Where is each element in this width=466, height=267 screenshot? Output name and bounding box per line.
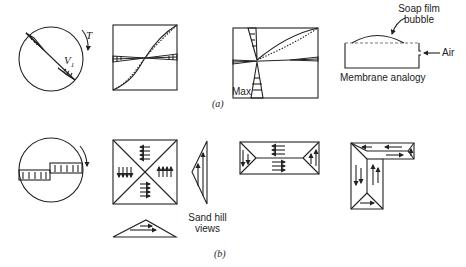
sand-hill-bottom-triangle [113, 220, 176, 237]
torque-label: T [86, 30, 92, 41]
caption-b: (b) [214, 248, 226, 259]
soap-film-label: Soap filmbubble [389, 3, 449, 25]
membrane-analogy-diagram [345, 18, 440, 68]
membrane-analogy-label: Membrane analogy [340, 72, 426, 83]
caption-a: (a) [212, 98, 224, 109]
circular-section-b [19, 138, 87, 202]
square-section-a [113, 25, 177, 90]
sand-hill-label: Sand hillviews [185, 212, 230, 234]
square-sand-hill [113, 140, 177, 204]
air-label: Air [442, 47, 454, 58]
figure-canvas [0, 0, 466, 267]
sand-hill-side-triangle [192, 141, 207, 204]
rectangle-sand-hill [240, 142, 319, 174]
circular-section-a [19, 27, 88, 91]
velocity-label: V1 [64, 55, 74, 71]
max-label: Max [232, 86, 251, 97]
l-section-sand-hill [351, 143, 414, 209]
